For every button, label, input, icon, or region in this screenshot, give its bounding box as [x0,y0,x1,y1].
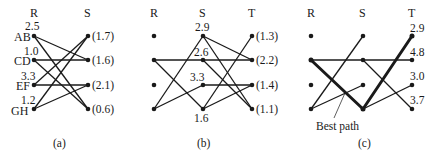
node-r [152,58,157,63]
node-s-4 [86,107,91,112]
node-t [250,83,255,88]
node-s [201,34,206,39]
caption-b: (b) [197,137,211,150]
node-value: 4.8 [410,46,425,58]
node-label: CD [14,54,31,68]
node-r [152,107,157,112]
node-label: GH [11,104,29,118]
node-r-cd [32,58,37,63]
edge [311,36,363,109]
column-header-r: R [307,6,315,20]
node-s-3 [86,83,91,88]
node-r [309,58,314,63]
node-r [309,34,314,39]
edge [154,60,203,109]
caption-a: (a) [53,137,66,150]
node-value: (2.1) [92,79,114,92]
node-s [361,83,366,88]
node-s [201,58,206,63]
node-s [361,107,366,112]
column-header-t: T [408,6,416,20]
caption-c: (c) [358,137,371,150]
node-value: (1.1) [256,103,278,116]
node-r [309,83,314,88]
column-header-t: T [248,6,256,20]
column-header-s: S [199,6,206,20]
best-path-label: Best path [316,120,359,133]
node-t [410,107,415,112]
node-value: (1.7) [92,30,114,43]
node-label: EF [16,79,30,93]
node-value: 3.0 [410,70,425,82]
node-value: (1.3) [256,30,278,43]
node-s [201,83,206,88]
node-value: 1.6 [194,112,209,124]
node-t [250,107,255,112]
node-r [152,34,157,39]
diagram-canvas: R S 2.5 AB 1.0 CD 3.3 EF 1.2 GH (1.7) (1… [0,0,435,155]
column-header-r: R [150,6,158,20]
node-value: 2.6 [194,46,209,58]
node-t [410,34,415,39]
node-label: AB [14,30,31,44]
column-header-s: S [84,6,91,20]
best-path-edge [311,60,363,109]
node-r [309,107,314,112]
node-r-ab [32,34,37,39]
panel-a: R S 2.5 AB 1.0 CD 3.3 EF 1.2 GH (1.7) (1… [11,6,114,150]
node-value: 3.7 [410,94,425,106]
node-s [361,58,366,63]
node-value: (1.6) [92,54,114,67]
node-value: (0.6) [92,103,114,116]
node-value: 2.9 [410,22,425,34]
best-path-edge [363,36,412,109]
column-header-s: S [359,6,366,20]
node-t [250,34,255,39]
node-r [152,83,157,88]
node-s-1 [86,34,91,39]
node-s-2 [86,58,91,63]
column-header-r: R [30,6,38,20]
node-value: (2.2) [256,54,278,67]
panel-b: R S T 2.9 2.6 3.3 1.6 (1.3) (2.2) [150,6,278,150]
node-s [201,107,206,112]
annotation-pointer [334,93,345,118]
edge [363,60,412,109]
node-r-ef [32,83,37,88]
node-r-gh [32,107,37,112]
node-value: (1.4) [256,79,278,92]
node-value: 3.3 [190,71,205,83]
node-t [250,58,255,63]
node-value: 2.9 [195,21,210,33]
node-t [410,58,415,63]
node-s [361,34,366,39]
node-t [410,83,415,88]
panel-c: R S T 2.9 4.8 3.0 3.7 Best path (c) [307,6,425,150]
